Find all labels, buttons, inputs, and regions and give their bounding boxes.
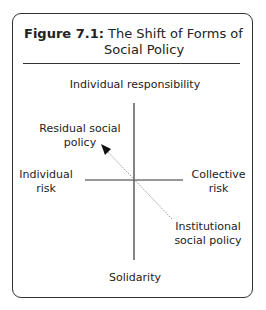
shift-arrow-line xyxy=(106,150,172,219)
diagram-canvas xyxy=(0,0,266,310)
arrow-head-icon xyxy=(101,144,111,155)
